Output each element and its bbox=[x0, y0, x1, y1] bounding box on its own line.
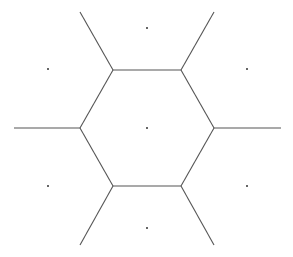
site-point-center bbox=[146, 127, 148, 129]
site-point-lower-left bbox=[47, 185, 49, 187]
infinite-ray bbox=[181, 186, 214, 245]
site-point-upper-left bbox=[47, 68, 49, 70]
site-point-upper-right bbox=[246, 68, 248, 70]
infinite-ray bbox=[181, 12, 214, 70]
site-point-lower-right bbox=[246, 185, 248, 187]
cell-edge bbox=[80, 70, 113, 128]
site-point-bottom bbox=[146, 227, 148, 229]
cell-edge bbox=[181, 70, 214, 128]
cell-edge bbox=[80, 128, 113, 186]
infinite-ray bbox=[80, 12, 113, 70]
infinite-ray bbox=[80, 186, 113, 245]
voronoi-diagram bbox=[0, 0, 293, 257]
site-point-top bbox=[146, 27, 148, 29]
cell-edge bbox=[181, 128, 214, 186]
